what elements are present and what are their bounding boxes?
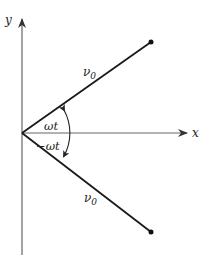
- upper-angle-label: ωt: [44, 119, 58, 133]
- lower-endpoint-dot: [149, 230, 154, 235]
- upper-endpoint-dot: [149, 40, 154, 45]
- velocity-diagram: y x ν0 ν0 ωt −ωt: [0, 0, 208, 265]
- lower-velocity-label: ν0: [84, 191, 97, 207]
- upper-velocity-line: [22, 42, 151, 133]
- upper-velocity-label: ν0: [83, 65, 96, 81]
- lower-angle-label: −ωt: [36, 139, 60, 153]
- x-axis-label: x: [192, 126, 199, 140]
- y-axis-label: y: [4, 13, 12, 27]
